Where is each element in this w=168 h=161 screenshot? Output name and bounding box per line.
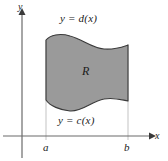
region-label: R	[82, 65, 89, 77]
x-axis-label: x	[155, 131, 159, 141]
region-diagram-svg	[0, 0, 168, 161]
tick-label-b: b	[124, 142, 130, 153]
upper-curve-label: y = d(x)	[60, 13, 97, 24]
lower-curve-label: y = c(x)	[58, 115, 95, 126]
tick-label-a: a	[43, 142, 49, 153]
y-axis-label: y	[18, 2, 22, 12]
figure-canvas: y = d(x) y = c(x) R y x a b	[0, 0, 168, 161]
